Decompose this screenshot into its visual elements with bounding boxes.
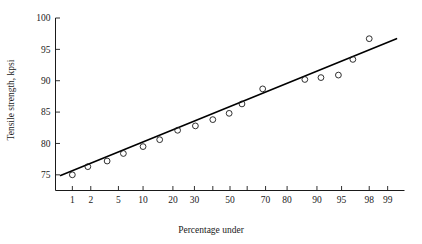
data-point-marker: [120, 151, 126, 157]
x-tick-label: 70: [261, 195, 271, 205]
x-tick-label: 1: [70, 195, 75, 205]
y-tick-label: 100: [36, 13, 51, 23]
y-tick-label: 90: [41, 76, 51, 86]
data-point-marker: [318, 75, 324, 81]
data-point-marker: [69, 172, 75, 178]
data-point-marker: [140, 144, 146, 150]
x-axis-title: Percentage under: [178, 225, 245, 235]
x-tick-label: 95: [337, 195, 347, 205]
x-tick-label: 20: [168, 195, 178, 205]
data-point-marker: [350, 57, 356, 63]
fit-line-group: [61, 39, 397, 176]
probability-plot-svg: 12510203050708090959899 7580859095100 Pe…: [0, 0, 422, 244]
tickmarks-group: [56, 18, 388, 191]
axes-group: [56, 18, 405, 191]
data-point-marker: [260, 86, 266, 92]
fit-line: [61, 39, 397, 176]
x-tick-label: 30: [190, 195, 200, 205]
x-tick-label: 5: [116, 195, 121, 205]
x-tick-label: 99: [383, 195, 393, 205]
data-point-marker: [366, 36, 372, 42]
data-point-marker: [157, 137, 163, 143]
data-point-marker: [192, 123, 198, 129]
x-tick-label: 2: [88, 195, 93, 205]
y-tick-label: 80: [41, 139, 51, 149]
data-point-marker: [210, 117, 216, 123]
y-tick-label: 95: [41, 45, 51, 55]
chart-figure: 12510203050708090959899 7580859095100 Pe…: [0, 0, 422, 244]
data-points-group: [69, 36, 372, 178]
y-tick-label: 85: [41, 107, 51, 117]
y-tick-label: 75: [41, 170, 51, 180]
data-point-marker: [302, 77, 308, 83]
x-tick-label: 90: [312, 195, 322, 205]
x-tick-label: 10: [138, 195, 148, 205]
y-axis-title: Tensile strength, kpsi: [6, 59, 16, 140]
data-point-marker: [226, 110, 232, 116]
x-tick-label: 98: [364, 195, 374, 205]
y-tick-labels-group: 7580859095100: [36, 13, 51, 180]
x-tick-label: 80: [282, 195, 292, 205]
x-tick-labels-group: 12510203050708090959899: [70, 195, 393, 205]
x-tick-label: 50: [225, 195, 235, 205]
data-point-marker: [336, 72, 342, 78]
data-point-marker: [104, 158, 110, 164]
